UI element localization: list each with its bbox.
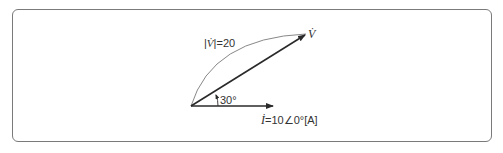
current-value: =10∠0°[A] [265,114,318,126]
voltage-end-label: V̇ [308,28,315,40]
voltage-symbol: V̇ [207,37,214,49]
angle-arc [216,95,218,106]
current-label: İ=10∠0°[A] [261,114,318,126]
voltage-magnitude-value: |=20 [214,37,236,49]
angle-label: 30° [220,95,237,106]
phasor-diagram [0,0,503,153]
voltage-magnitude-label: |V̇|=20 [204,38,235,49]
